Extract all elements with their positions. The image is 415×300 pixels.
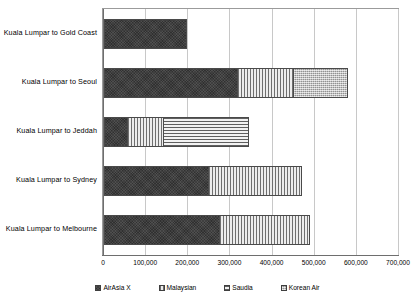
legend-label: AirAsia X [103, 284, 130, 292]
legend-item-malaysian[interactable]: Malaysian [159, 284, 197, 292]
bar-segment-malaysian[interactable] [220, 215, 309, 245]
legend-item-saudia[interactable]: Saudia [224, 284, 253, 292]
bar-segment-korean-air[interactable] [294, 68, 347, 98]
bar-segment-airasia-x[interactable] [104, 166, 209, 196]
legend-swatch-icon [281, 285, 287, 291]
x-tick-label: 300,000 [218, 258, 242, 267]
bar-segment-airasia-x[interactable] [104, 117, 128, 147]
x-tick-label: 600,000 [344, 258, 368, 267]
category-label: Kuala Lumpar to Jeddah [0, 127, 97, 135]
x-tick-label: 400,000 [260, 258, 284, 267]
legend-item-korean-air[interactable]: Korean Air [281, 284, 320, 292]
bar-segment-malaysian[interactable] [209, 166, 302, 196]
plot-area [102, 8, 399, 256]
x-tick-label: 100,000 [133, 258, 157, 267]
category-label: Kuala Lumpar to Melbourne [0, 225, 97, 233]
category-axis-labels: Kuala Lumpar to Gold CoastKuala Lumpar t… [0, 8, 101, 256]
stacked-bar-chart: Kuala Lumpar to Gold CoastKuala Lumpar t… [0, 0, 415, 300]
legend-label: Malaysian [167, 284, 197, 292]
x-tick-label: 500,000 [302, 258, 326, 267]
bar-segment-malaysian[interactable] [128, 117, 164, 147]
bar-segment-airasia-x[interactable] [104, 215, 220, 245]
x-tick-label: 700,000 [386, 258, 410, 267]
x-axis-line [102, 255, 399, 256]
bar-segment-malaysian[interactable] [238, 68, 295, 98]
bar-row[interactable] [104, 166, 399, 196]
x-tick-label: 200,000 [175, 258, 199, 267]
legend-label: Saudia [232, 284, 253, 292]
x-axis-tick-labels: 0100,000200,000300,000400,000500,000600,… [0, 258, 415, 270]
legend-swatch-icon [95, 285, 101, 291]
legend-item-airasia-x[interactable]: AirAsia X [95, 284, 130, 292]
x-tick-label: 0 [101, 258, 105, 267]
legend-swatch-icon [224, 285, 230, 291]
bar-segment-airasia-x[interactable] [104, 68, 238, 98]
bar-row[interactable] [104, 215, 399, 245]
bar-segment-saudia[interactable] [164, 117, 248, 147]
bar-row[interactable] [104, 117, 399, 147]
legend-label: Korean Air [289, 284, 320, 292]
bar-segment-airasia-x[interactable] [104, 19, 187, 49]
legend-swatch-icon [159, 285, 165, 291]
category-label: Kuala Lumpar to Seoul [0, 78, 97, 86]
bar-row[interactable] [104, 68, 399, 98]
bar-row[interactable] [104, 19, 399, 49]
chart-legend: AirAsia XMalaysianSaudiaKorean Air [0, 281, 415, 295]
category-label: Kuala Lumpar to Sydney [0, 176, 97, 184]
category-label: Kuala Lumpar to Gold Coast [0, 29, 97, 37]
